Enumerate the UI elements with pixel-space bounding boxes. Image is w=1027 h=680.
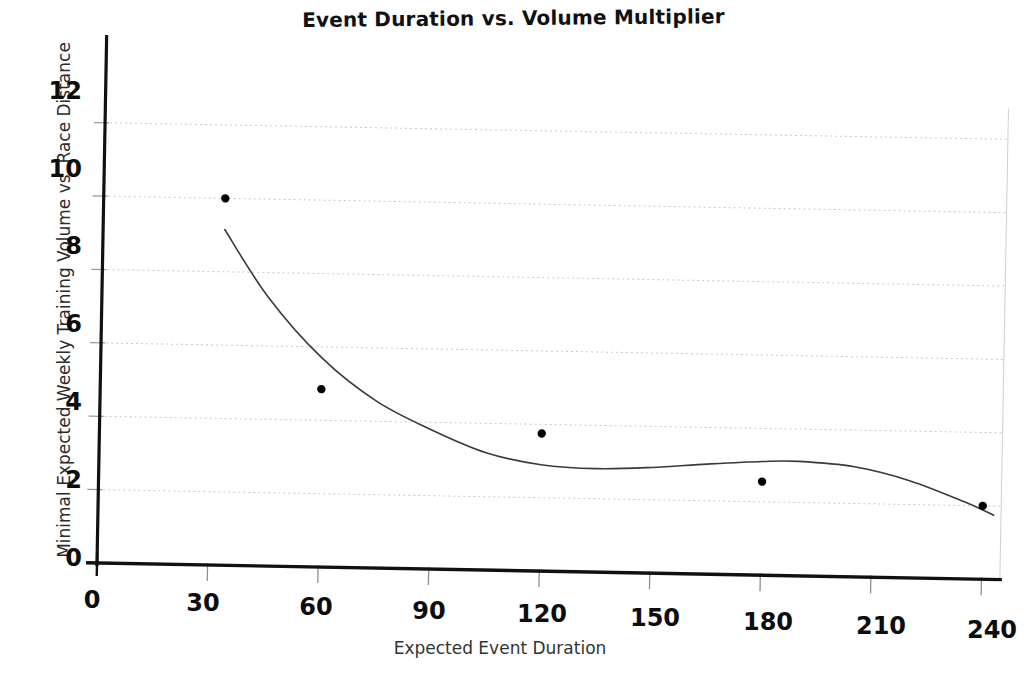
chart-page: Event Duration vs. Volume Multiplier Min… bbox=[0, 0, 1027, 680]
data-point bbox=[758, 477, 767, 486]
gridlines bbox=[98, 123, 1008, 506]
data-point bbox=[221, 194, 230, 203]
y-axis-line bbox=[97, 35, 107, 566]
data-point bbox=[317, 385, 326, 394]
fitted-trend-curve bbox=[220, 230, 999, 516]
data-point-group bbox=[216, 194, 993, 510]
x-axis-line bbox=[86, 563, 1002, 580]
plot-right-border bbox=[1000, 109, 1009, 580]
plot-area bbox=[0, 0, 1027, 680]
data-point bbox=[537, 429, 546, 438]
